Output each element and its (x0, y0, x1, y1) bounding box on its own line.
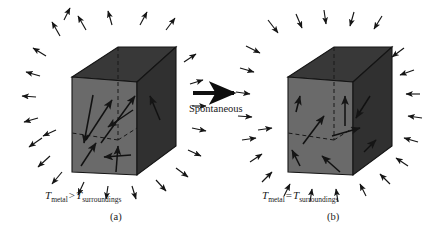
temperature-relation-a: Tmetal>Tsurroundings (45, 190, 121, 204)
relation-operator-a: > (68, 189, 76, 201)
thermodynamics-figure: Tmetal>Tsurroundings Tmetal=Tsurrounding… (0, 0, 438, 242)
panel-label-a: (a) (110, 212, 122, 223)
temperature-relation-b: Tmetal=Tsurroundings (262, 190, 338, 204)
temp-subscript-b-right: surroundings (299, 195, 338, 204)
relation-operator-b: = (285, 189, 293, 201)
temp-subscript-a-left: metal (51, 195, 68, 204)
temp-subscript-b-left: metal (268, 195, 285, 204)
cube-front-face-a (72, 77, 137, 175)
spontaneous-caption: Spontaneous (189, 104, 243, 115)
panel-label-b: (b) (327, 212, 339, 223)
temp-subscript-a-right: surroundings (82, 195, 121, 204)
figure-canvas (0, 0, 438, 242)
cube-panel-a (72, 47, 176, 175)
cube-panel-b (288, 47, 392, 175)
